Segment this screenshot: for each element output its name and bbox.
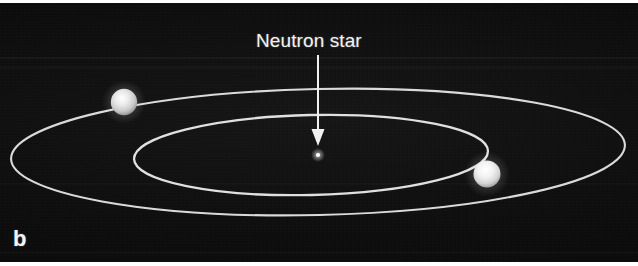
astronomy-illustration-plate: Neutron star b bbox=[0, 3, 638, 262]
plate-bottom-edge bbox=[0, 262, 638, 266]
neutron-star-dot bbox=[311, 148, 325, 162]
companion-star-left bbox=[102, 80, 146, 124]
arrow-down-icon bbox=[312, 55, 325, 146]
neutron-star-label: Neutron star bbox=[256, 30, 362, 52]
figure-panel-b: Neutron star b bbox=[0, 0, 638, 266]
panel-letter-label: b bbox=[13, 227, 26, 251]
companion-star-right bbox=[464, 151, 510, 197]
